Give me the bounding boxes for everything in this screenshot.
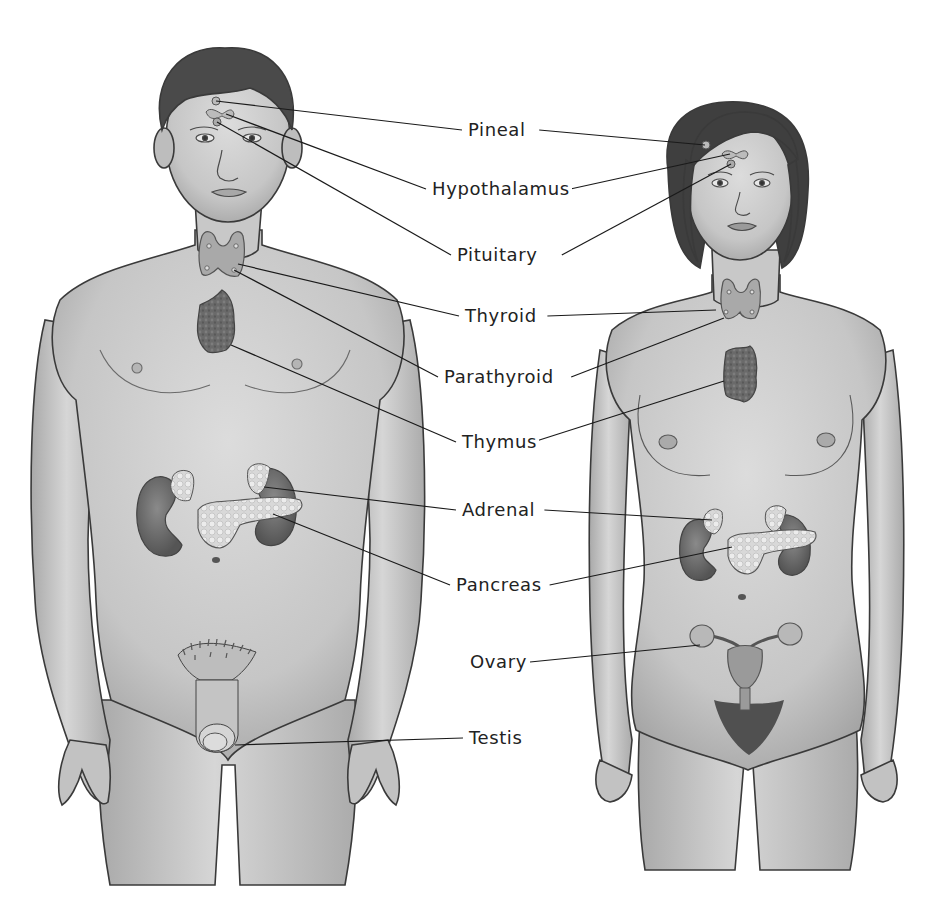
label-testis: Testis bbox=[467, 727, 524, 749]
endocrine-diagram: PinealHypothalamusPituitaryThyroidParath… bbox=[0, 0, 945, 904]
female-figure bbox=[589, 102, 903, 870]
female-thymus bbox=[724, 346, 757, 402]
label-hypothalamus: Hypothalamus bbox=[430, 178, 572, 200]
label-parathyroid: Parathyroid bbox=[442, 366, 556, 388]
label-ovary: Ovary bbox=[468, 651, 529, 673]
label-thymus: Thymus bbox=[460, 431, 539, 453]
label-pituitary: Pituitary bbox=[455, 244, 539, 266]
label-pineal: Pineal bbox=[466, 119, 528, 141]
male-figure bbox=[31, 48, 424, 885]
male-testis bbox=[203, 733, 227, 751]
label-pancreas: Pancreas bbox=[454, 574, 544, 596]
label-thyroid: Thyroid bbox=[463, 305, 539, 327]
label-adrenal: Adrenal bbox=[460, 499, 537, 521]
